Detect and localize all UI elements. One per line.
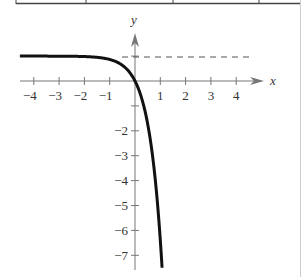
y-tick-label: −4 — [114, 173, 128, 188]
x-tick-label: 3 — [208, 88, 215, 103]
y-axis-label: y — [129, 12, 137, 27]
x-tick-label: −2 — [73, 88, 87, 103]
x-axis: −4−3−2−11234 x — [20, 73, 276, 103]
x-tick-label: −4 — [23, 88, 37, 103]
y-tick-label: −2 — [114, 123, 128, 138]
function-curve — [20, 56, 162, 268]
y-tick-label: −6 — [114, 223, 128, 238]
x-axis-label: x — [269, 73, 276, 88]
y-tick-label: −7 — [114, 248, 128, 263]
x-tick-label: 2 — [182, 88, 189, 103]
y-tick-label: −3 — [114, 148, 128, 163]
y-axis: −2−3−4−5−6−7 y — [114, 12, 139, 270]
x-tick-label: −1 — [99, 88, 113, 103]
x-tick-label: 4 — [233, 88, 240, 103]
y-tick-label: −5 — [114, 198, 128, 213]
x-tick-label: 1 — [157, 88, 164, 103]
table-fragment — [16, 0, 300, 4]
chart-svg: −4−3−2−11234 x −2−3−4−5−6−7 y — [0, 0, 302, 277]
x-tick-label: −3 — [48, 88, 62, 103]
graph-figure: −4−3−2−11234 x −2−3−4−5−6−7 y — [0, 0, 302, 277]
